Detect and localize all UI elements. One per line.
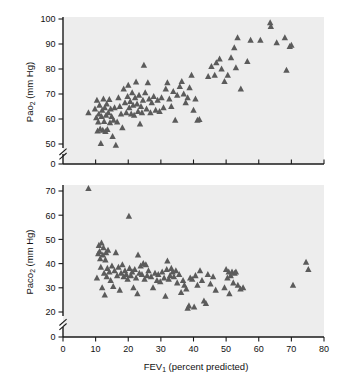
x-tick-label: 70 <box>286 344 296 354</box>
x-title-tail: (percent predicted) <box>166 361 248 372</box>
y-tick-label: 0 <box>50 332 55 342</box>
panel-top: 05060708090100 Pao2 (mm Hg) <box>24 14 324 169</box>
panel-bottom-y-tick-labels: 0203040506070 <box>45 186 55 342</box>
x-title-main: FEV <box>144 361 163 372</box>
svg-text:Pao2 (mm Hg): Pao2 (mm Hg) <box>24 62 36 122</box>
x-tick-label: 60 <box>254 344 264 354</box>
y-title-bot-tail: (mm Hg) <box>24 229 35 269</box>
y-tick-label: 70 <box>45 89 55 99</box>
y-tick-label: 30 <box>45 283 55 293</box>
x-tick-label: 80 <box>319 344 329 354</box>
x-tick-label: 30 <box>156 344 166 354</box>
x-axis-tick-labels: 01020304050607080 <box>60 344 329 354</box>
y-title-top-tail: (mm Hg) <box>24 62 35 102</box>
y-tick-label: 40 <box>45 259 55 269</box>
panel-bottom: 0203040506070 01020304050607080 Paco2 (m… <box>24 185 329 373</box>
panel-top-y-tick-labels: 05060708090100 <box>40 14 55 169</box>
y-tick-label: 70 <box>45 186 55 196</box>
y-title-top-pa: Pa <box>24 110 35 122</box>
figure-container: 05060708090100 Pao2 (mm Hg) 020304050607… <box>0 0 337 379</box>
svg-text:FEV1 (percent predicted): FEV1 (percent predicted) <box>144 361 249 373</box>
y-title-bot-pa: Pa <box>24 282 35 294</box>
y-tick-label: 20 <box>45 307 55 317</box>
panel-bottom-y-axis-title: Paco2 (mm Hg) <box>24 229 36 294</box>
svg-text:Paco2 (mm Hg): Paco2 (mm Hg) <box>24 229 36 294</box>
y-tick-label: 60 <box>45 114 55 124</box>
y-tick-label: 60 <box>45 211 55 221</box>
y-tick-label: 50 <box>45 139 55 149</box>
y-tick-label: 100 <box>40 14 55 24</box>
x-tick-label: 0 <box>60 344 65 354</box>
y-tick-label: 0 <box>50 159 55 169</box>
x-tick-label: 50 <box>221 344 231 354</box>
y-tick-label: 80 <box>45 64 55 74</box>
scatter-plot-figure: 05060708090100 Pao2 (mm Hg) 020304050607… <box>0 0 337 379</box>
x-tick-label: 20 <box>123 344 133 354</box>
y-tick-label: 50 <box>45 235 55 245</box>
x-tick-label: 40 <box>188 344 198 354</box>
x-tick-label: 10 <box>91 344 101 354</box>
y-tick-label: 90 <box>45 39 55 49</box>
x-axis-title: FEV1 (percent predicted) <box>144 361 249 373</box>
panel-top-y-axis-title: Pao2 (mm Hg) <box>24 62 36 122</box>
